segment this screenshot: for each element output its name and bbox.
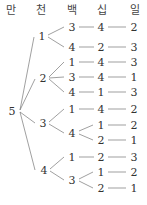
- node: 4: [98, 57, 105, 68]
- thousand-node-4: 4: [41, 165, 48, 176]
- node: 4: [69, 42, 76, 53]
- node: 2: [98, 135, 105, 146]
- node: 2: [98, 152, 105, 163]
- node: 1: [98, 167, 105, 178]
- node: 1: [69, 57, 76, 68]
- thousand-node-3: 3: [40, 118, 47, 129]
- node: 4: [69, 128, 76, 139]
- node: 1: [69, 104, 76, 115]
- node: 2: [131, 22, 138, 33]
- node: 3: [131, 152, 138, 163]
- node: 2: [131, 167, 138, 178]
- node: 1: [131, 135, 138, 146]
- node: 4: [98, 22, 105, 33]
- node: 1: [98, 87, 105, 98]
- node: 2: [131, 120, 138, 131]
- node: 3: [131, 57, 138, 68]
- node: 2: [131, 104, 138, 115]
- node: 1: [131, 183, 138, 194]
- node: 3: [69, 22, 76, 33]
- node: 1: [98, 120, 105, 131]
- node: 2: [98, 183, 105, 194]
- node: 4: [69, 87, 76, 98]
- thousand-node-2: 2: [40, 73, 47, 84]
- node: 3: [69, 72, 76, 83]
- node: 1: [69, 152, 76, 163]
- node: 3: [131, 42, 138, 53]
- node: 3: [69, 175, 76, 186]
- node: 3: [131, 87, 138, 98]
- node: 4: [98, 104, 105, 115]
- root-node: 5: [9, 106, 16, 117]
- node: 2: [98, 42, 105, 53]
- node: 4: [98, 72, 105, 83]
- thousand-node-1: 1: [39, 31, 46, 42]
- node: 1: [131, 72, 138, 83]
